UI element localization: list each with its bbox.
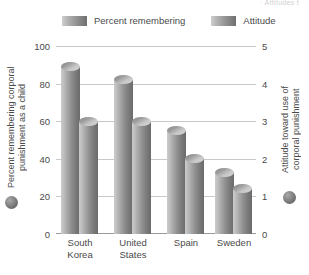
right-tick-label: 4 xyxy=(262,78,267,89)
bar-percent-remembering[interactable] xyxy=(61,67,80,234)
bar-attitude[interactable] xyxy=(132,121,151,234)
bar-group xyxy=(167,46,204,234)
legend-label: Percent remembering xyxy=(94,15,185,26)
category-labels: South Korea United States Spain Sweden xyxy=(56,237,256,273)
legend-label: Attitude xyxy=(243,15,275,26)
left-tick-label: 80 xyxy=(39,78,50,89)
bar-cap-icon xyxy=(233,184,252,193)
bar-attitude[interactable] xyxy=(79,121,98,234)
right-axis-marker-icon xyxy=(283,191,296,204)
right-tick-label: 5 xyxy=(262,41,267,52)
chart-figure: · Attitudes t Percent remembering Attitu… xyxy=(0,0,309,275)
bar-percent-remembering[interactable] xyxy=(114,80,133,234)
bar-cap-icon xyxy=(79,117,98,126)
right-tick-label: 1 xyxy=(262,191,267,202)
category-label-0: South Korea xyxy=(67,237,92,261)
left-axis-title: Percent remembering corporal punishment … xyxy=(6,52,28,202)
right-tick-label: 3 xyxy=(262,116,267,127)
bar-groups xyxy=(56,46,256,234)
bar-attitude[interactable] xyxy=(185,159,204,234)
bar-group xyxy=(61,46,98,234)
category-label-3: Sweden xyxy=(217,237,251,249)
category-label-1: United States xyxy=(119,237,146,261)
legend-item-percent-remembering: Percent remembering xyxy=(62,15,185,26)
bar-attitude[interactable] xyxy=(233,189,252,234)
left-axis-marker-icon xyxy=(5,196,18,209)
left-tick-label: 100 xyxy=(34,41,50,52)
right-tick-label: 0 xyxy=(262,229,267,240)
legend-swatch-icon xyxy=(211,16,236,26)
legend-swatch-icon xyxy=(62,16,87,26)
bar-cap-icon xyxy=(114,75,133,84)
bar-cap-icon xyxy=(132,117,151,126)
chart-legend: Percent remembering Attitude xyxy=(62,15,276,26)
left-tick-label: 0 xyxy=(45,229,50,240)
right-axis-title: Attitude toward use of corporal punishme… xyxy=(280,70,302,188)
left-tick-label: 20 xyxy=(39,191,50,202)
bar-group xyxy=(114,46,151,234)
right-tick-label: 2 xyxy=(262,153,267,164)
left-tick-label: 60 xyxy=(39,116,50,127)
top-clipped-note: · Attitudes t xyxy=(260,0,299,5)
left-tick-label: 40 xyxy=(39,153,50,164)
legend-item-attitude: Attitude xyxy=(211,15,275,26)
bar-cap-icon xyxy=(167,126,186,135)
bar-group xyxy=(215,46,252,234)
bar-cap-icon xyxy=(215,168,234,177)
bar-cap-icon xyxy=(61,62,80,71)
bar-percent-remembering[interactable] xyxy=(167,131,186,234)
plot-area: 100 80 60 40 20 0 5 4 3 2 1 0 xyxy=(56,46,256,234)
bar-percent-remembering[interactable] xyxy=(215,172,234,234)
bar-cap-icon xyxy=(185,154,204,163)
category-label-2: Spain xyxy=(174,237,198,249)
